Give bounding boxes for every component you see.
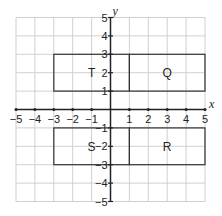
x-axis-label: x (208, 97, 215, 111)
y-tick-label: 1 (101, 85, 107, 97)
y-tick-label: −1 (95, 122, 108, 134)
labels: −5−4−3−2−11234554321−1−2−3−4−5xy (10, 4, 215, 208)
rectangle-label: T (88, 66, 96, 80)
axes (15, 18, 207, 202)
x-tick (128, 108, 131, 111)
y-tick-label: −3 (95, 159, 108, 171)
y-tick-label: 5 (101, 12, 107, 24)
y-tick-label: −5 (95, 196, 108, 208)
x-tick-label: −5 (10, 113, 23, 125)
y-tick-label: −4 (95, 177, 108, 189)
y-tick-label: 3 (101, 48, 107, 60)
x-tick-label: 2 (145, 113, 151, 125)
coordinate-plane: TQSR −5−4−3−2−11234554321−1−2−3−4−5xy (0, 0, 222, 216)
x-tick-label: −2 (66, 113, 79, 125)
x-tick (147, 108, 150, 111)
y-axis-label: y (112, 4, 119, 18)
x-tick (71, 108, 74, 111)
rectangle-label: R (163, 140, 172, 154)
x-tick-label: 4 (183, 113, 189, 125)
x-tick (52, 108, 55, 111)
y-tick-label: 4 (101, 30, 107, 42)
x-tick (166, 108, 169, 111)
x-tick-label: −3 (48, 113, 61, 125)
rectangle-label: Q (163, 66, 172, 80)
x-tick (15, 108, 18, 111)
x-tick-label: 5 (202, 113, 208, 125)
x-tick-label: 3 (164, 113, 170, 125)
x-tick-label: −4 (29, 113, 42, 125)
x-tick (33, 108, 36, 111)
y-tick-label: 2 (101, 67, 107, 79)
x-tick-label: 1 (126, 113, 132, 125)
x-tick (204, 108, 207, 111)
y-tick-label: −2 (95, 140, 108, 152)
x-tick (90, 108, 93, 111)
x-tick (185, 108, 188, 111)
